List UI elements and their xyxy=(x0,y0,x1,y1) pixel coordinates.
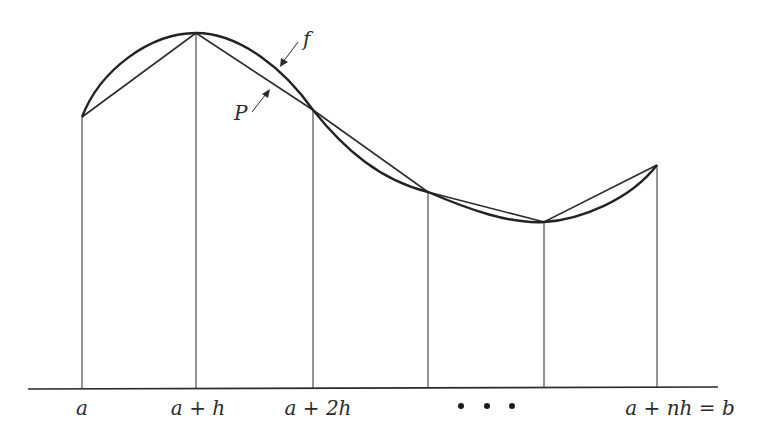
ordinate-lines xyxy=(82,33,657,389)
label-P: P xyxy=(233,101,248,125)
label-f: f xyxy=(301,27,314,51)
polyline-P xyxy=(82,33,657,222)
x-axis xyxy=(28,387,718,389)
tick-label-a-plus-h: a + h xyxy=(171,396,225,420)
ellipsis-dots xyxy=(458,403,515,409)
label-f-pointer xyxy=(280,42,298,67)
label-P-pointer xyxy=(252,89,270,112)
tick-label-a-plus-2h: a + 2h xyxy=(284,396,351,420)
curve-f xyxy=(82,33,657,222)
tick-label-b: a + nh = b xyxy=(625,396,734,420)
tick-label-a: a xyxy=(76,396,88,420)
interpolation-diagram: f P a a + h a + 2h a + nh = b xyxy=(0,0,773,436)
